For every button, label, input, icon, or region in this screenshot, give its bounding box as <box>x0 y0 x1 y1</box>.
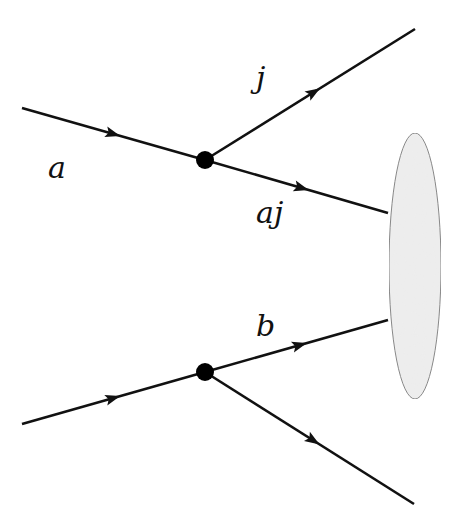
arrow-icon <box>293 181 310 196</box>
interaction-blob <box>389 133 441 399</box>
arrow-icon <box>104 127 121 142</box>
line-aj-outgoing <box>205 160 388 213</box>
arrow-icon <box>291 338 308 353</box>
label-a: a <box>48 150 66 185</box>
vertex-top <box>196 151 214 169</box>
arrow-icon <box>304 432 323 449</box>
vertex-bottom <box>196 363 214 381</box>
label-j: j <box>250 60 265 95</box>
vertices <box>196 151 214 381</box>
label-aj: aj <box>256 195 283 230</box>
arrow-icon <box>305 84 324 101</box>
arrow-icon <box>104 391 121 406</box>
feynman-diagram: a j aj b <box>0 0 458 523</box>
particle-lines <box>22 29 415 504</box>
label-b: b <box>256 308 275 343</box>
